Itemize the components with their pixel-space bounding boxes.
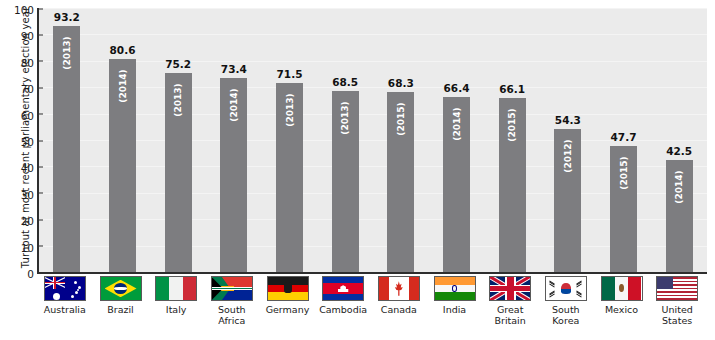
- gridline: [39, 114, 707, 115]
- bar-value-label: 66.4: [444, 82, 470, 94]
- category-item[interactable]: South Africa: [205, 276, 259, 326]
- category-label: India: [428, 304, 482, 315]
- bar-value-label: 54.3: [555, 114, 581, 126]
- gridline: [39, 140, 707, 141]
- flag-great-britain-icon: [489, 276, 531, 301]
- flag-cambodia-icon: [322, 276, 364, 301]
- category-item[interactable]: United States: [650, 276, 704, 326]
- y-axis-tick-label: 80: [21, 56, 39, 68]
- bar-year-label: (2015): [619, 156, 629, 189]
- bar-group[interactable]: (2013)93.2: [53, 8, 80, 272]
- bar-value-label: 73.4: [221, 63, 247, 75]
- bar[interactable]: (2014): [443, 97, 470, 272]
- category-item[interactable]: India: [428, 276, 482, 315]
- gridline: [39, 87, 707, 88]
- y-axis-tick-label: 10: [21, 241, 39, 253]
- gridline: [39, 219, 707, 220]
- bar-value-label: 47.7: [611, 131, 637, 143]
- category-item[interactable]: Canada: [372, 276, 426, 315]
- category-item[interactable]: Italy: [149, 276, 203, 315]
- y-axis-tick-label: 30: [21, 188, 39, 200]
- category-item[interactable]: Mexico: [595, 276, 649, 315]
- bar-year-label: (2013): [62, 36, 72, 69]
- y-axis-tick-mark: [39, 246, 43, 247]
- bar-value-label: 66.1: [499, 83, 525, 95]
- bar-group[interactable]: (2014)73.4: [220, 8, 247, 272]
- y-axis-tick-label: 60: [21, 109, 39, 121]
- bar[interactable]: (2013): [276, 83, 303, 272]
- gridline: [39, 34, 707, 35]
- bar[interactable]: (2015): [610, 146, 637, 272]
- gridline: [39, 8, 707, 9]
- bar[interactable]: (2015): [387, 92, 414, 272]
- flag-mexico-icon: [601, 276, 643, 301]
- bar-group[interactable]: (2013)75.2: [165, 8, 192, 272]
- bar[interactable]: (2013): [53, 26, 80, 272]
- bar-group[interactable]: (2014)66.4: [443, 8, 470, 272]
- y-axis-tick: 50: [21, 131, 39, 150]
- y-axis-tick: 100: [14, 0, 39, 18]
- bar-group[interactable]: (2012)54.3: [554, 8, 581, 272]
- flag-australia-icon: [44, 276, 86, 301]
- category-label: South Africa: [205, 304, 259, 326]
- category-label: United States: [650, 304, 704, 326]
- flag-brazil-icon: [100, 276, 142, 301]
- bar-year-label: (2012): [563, 139, 573, 172]
- gridline: [39, 166, 707, 167]
- category-item[interactable]: Great Britain: [483, 276, 537, 326]
- category-item[interactable]: Cambodia: [316, 276, 370, 315]
- y-axis-tick-label: 100: [14, 4, 39, 16]
- bar-value-label: 75.2: [165, 58, 191, 70]
- category-label: Great Britain: [483, 304, 537, 326]
- y-axis-tick: 80: [21, 51, 39, 70]
- category-label: Cambodia: [316, 304, 370, 315]
- category-axis: AustraliaBrazilItalySouth AfricaGermanyC…: [37, 276, 707, 340]
- y-axis-tick-mark: [39, 8, 43, 9]
- bar-year-label: (2013): [285, 94, 295, 127]
- bar[interactable]: (2014): [220, 78, 247, 272]
- bar-year-label: (2015): [507, 108, 517, 141]
- category-item[interactable]: South Korea: [539, 276, 593, 326]
- y-axis-tick-mark: [39, 140, 43, 141]
- category-label: Mexico: [595, 304, 649, 315]
- y-axis-tick-label: 90: [21, 30, 39, 42]
- bar[interactable]: (2013): [332, 91, 359, 272]
- y-axis-tick-mark: [39, 87, 43, 88]
- bar[interactable]: (2014): [666, 160, 693, 272]
- bar[interactable]: (2012): [554, 129, 581, 272]
- category-item[interactable]: Brazil: [94, 276, 148, 315]
- bar-group[interactable]: (2013)68.5: [332, 8, 359, 272]
- bar[interactable]: (2014): [109, 59, 136, 272]
- y-axis-tick-label: 50: [21, 136, 39, 148]
- bar-group[interactable]: (2013)71.5: [276, 8, 303, 272]
- bar-year-label: (2014): [229, 89, 239, 122]
- category-item[interactable]: Germany: [261, 276, 315, 315]
- y-axis-tick: 90: [21, 25, 39, 44]
- x-axis-line: [37, 272, 707, 274]
- category-label: Australia: [38, 304, 92, 315]
- bar-value-label: 68.5: [332, 76, 358, 88]
- y-axis-tick-label: 70: [21, 83, 39, 95]
- bar-group[interactable]: (2015)66.1: [499, 8, 526, 272]
- category-label: Germany: [261, 304, 315, 315]
- bar-year-label: (2014): [118, 70, 128, 103]
- bar-group[interactable]: (2014)42.5: [666, 8, 693, 272]
- bar-value-label: 68.3: [388, 77, 414, 89]
- category-item[interactable]: Australia: [38, 276, 92, 315]
- bar-group[interactable]: (2015)68.3: [387, 8, 414, 272]
- bar-value-label: 71.5: [277, 68, 303, 80]
- flag-germany-icon: [267, 276, 309, 301]
- gridline: [39, 246, 707, 247]
- bar-value-label: 80.6: [110, 44, 136, 56]
- bar-group[interactable]: (2014)80.6: [109, 8, 136, 272]
- bar[interactable]: (2015): [499, 98, 526, 273]
- voter-turnout-bar-chart: Turnout at most recent parliamentary ele…: [0, 0, 715, 340]
- category-label: South Korea: [539, 304, 593, 326]
- category-label: Brazil: [94, 304, 148, 315]
- bar[interactable]: (2013): [165, 73, 192, 272]
- bar-group[interactable]: (2015)47.7: [610, 8, 637, 272]
- bar-value-label: 93.2: [54, 11, 80, 23]
- y-axis-tick: 70: [21, 78, 39, 97]
- flag-india-icon: [434, 276, 476, 301]
- bar-year-label: (2014): [674, 170, 684, 203]
